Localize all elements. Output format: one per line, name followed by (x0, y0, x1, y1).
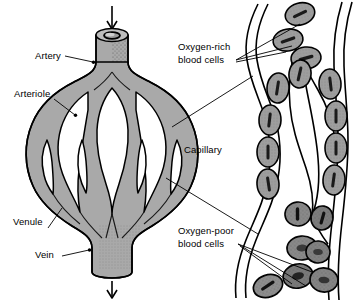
label-capillary: Capillary (184, 144, 222, 156)
label-vein: Vein (35, 249, 54, 261)
diagram-canvas: Artery Arteriole Venule Vein Capillary O… (0, 0, 364, 302)
capillary-bed-network (24, 60, 204, 280)
label-oxygen-rich-blood-cells: Oxygen-rich blood cells (178, 41, 230, 66)
label-oxygen-poor-line2: blood cells (178, 238, 234, 251)
label-oxygen-rich-line1: Oxygen-rich (178, 41, 230, 54)
inflow-arrow-icon (107, 6, 117, 29)
label-oxygen-poor-line1: Oxygen-poor (178, 225, 234, 238)
outflow-arrow-icon (107, 281, 117, 298)
label-venule: Venule (13, 216, 43, 228)
oxygen-poor-blood-cells (250, 201, 339, 302)
label-oxygen-rich-line2: blood cells (178, 54, 230, 67)
label-arteriole: Arteriole (14, 88, 50, 100)
label-oxygen-poor-blood-cells: Oxygen-poor blood cells (178, 225, 234, 250)
label-artery: Artery (35, 50, 61, 62)
